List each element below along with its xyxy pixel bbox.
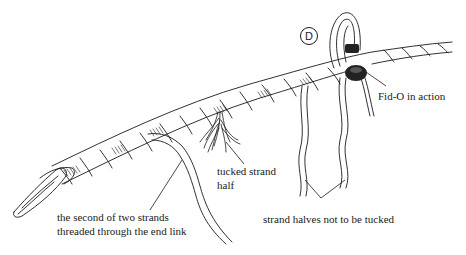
frayed-strand-icon — [200, 112, 240, 152]
label-second-strand-line1: the second of two strands — [57, 211, 169, 224]
label-fid-o: Fid-O in action — [378, 90, 445, 103]
fid-o-tool-icon — [345, 44, 367, 81]
label-tucked-strand-line1: tucked strand — [217, 165, 276, 178]
leader-second-strand — [150, 160, 182, 210]
leader-fid-o — [366, 72, 386, 86]
rope-icon — [52, 42, 452, 184]
label-second-strand-line2: threaded through the end link — [57, 225, 187, 238]
leader-strand-halves — [305, 180, 345, 198]
step-marker: D — [300, 27, 318, 45]
strand-halves-icon — [299, 78, 348, 196]
strand-loop-icon — [330, 13, 374, 116]
rope-splice-diagram: D Fid-O in action tucked strand half str… — [0, 0, 466, 255]
label-tucked-strand-line2: half — [217, 179, 234, 192]
leader-tucked-strand — [226, 142, 244, 164]
label-strand-halves: strand halves not to be tucked — [263, 213, 394, 226]
